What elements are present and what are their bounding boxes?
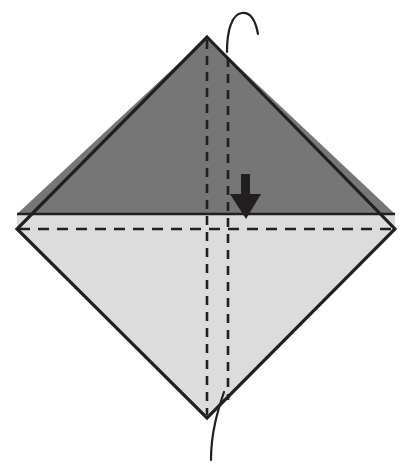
origami-diagram-canvas — [0, 0, 420, 474]
fold-arrow-shaft — [241, 174, 250, 197]
origami-diagram-svg — [0, 0, 420, 474]
